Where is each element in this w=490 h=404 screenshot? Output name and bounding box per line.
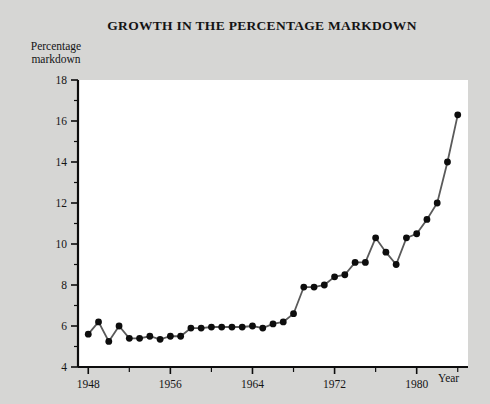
data-point [229,324,236,331]
x-axis-ticks: 19481956196419721980 [77,367,458,390]
data-point [311,284,318,291]
x-tick-label: 1964 [241,378,264,390]
data-point [259,325,266,332]
y-tick-label: 12 [56,197,68,209]
data-point [424,216,431,223]
data-point [249,323,256,330]
data-point [208,324,215,331]
data-point [352,259,359,266]
data-point [393,261,400,268]
y-axis-ticks: 4681012141618 [56,74,79,373]
x-tick-label: 1980 [405,378,428,390]
data-point [187,325,194,332]
data-point [454,111,461,118]
data-point [239,324,246,331]
y-tick-label: 18 [56,74,68,86]
chart-figure: GROWTH IN THE PERCENTAGE MARKDOWN Percen… [0,0,490,404]
data-point [177,333,184,340]
data-point [126,335,133,342]
data-point [270,321,277,328]
data-point [105,338,112,345]
data-point [403,234,410,241]
data-point [362,259,369,266]
data-point [116,323,123,330]
data-point [382,249,389,256]
y-tick-label: 16 [56,115,68,127]
data-point [157,336,164,343]
data-point [413,230,420,237]
data-point [167,333,174,340]
x-tick-label: 1948 [77,378,100,390]
y-tick-label: 14 [56,156,68,168]
data-point [331,273,338,280]
data-point [290,310,297,317]
data-point [85,331,92,338]
y-tick-label: 6 [61,320,67,332]
data-point [321,282,328,289]
data-point [218,324,225,331]
data-point [300,284,307,291]
data-point [146,333,153,340]
plot-area: 4681012141618 19481956196419721980 [0,0,490,404]
data-point [280,319,287,326]
data-point [136,335,143,342]
data-point [444,159,451,166]
y-tick-label: 10 [56,238,68,250]
x-tick-label: 1972 [323,378,346,390]
data-point [341,271,348,278]
data-point [372,234,379,241]
data-point [434,200,441,207]
x-tick-label: 1956 [159,378,182,390]
data-point [95,319,102,326]
y-tick-label: 8 [61,279,67,291]
y-tick-label: 4 [61,361,67,373]
data-point [198,325,205,332]
